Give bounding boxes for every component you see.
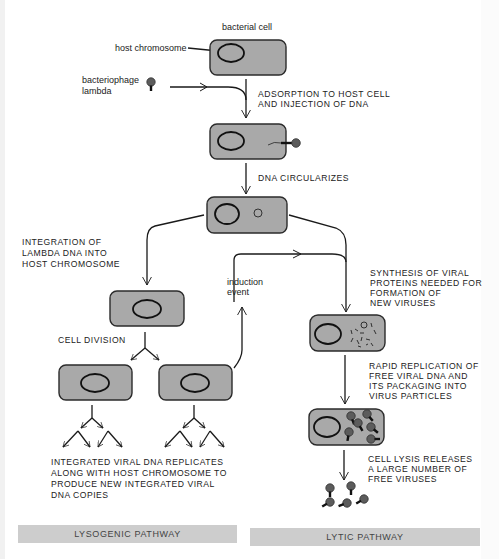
lysogen-cell xyxy=(110,291,184,326)
induction-from-daughter xyxy=(234,307,242,368)
bacterial-cell-circularized xyxy=(207,197,287,233)
step-lysis: CELL LYSIS RELEASES A LARGE NUMBER OF FR… xyxy=(368,454,475,484)
step-integrated-replicates: INTEGRATED VIRAL DNA REPLICATES ALONG WI… xyxy=(51,457,230,500)
free-virus-icons xyxy=(320,482,370,510)
bacterial-cell-label: bacterial cell xyxy=(222,22,272,32)
diagram-canvas: bacterial cell host chromosome bacteriop… xyxy=(0,0,499,559)
phage-adsorption-arrow xyxy=(170,87,246,100)
bacterial-cell-injected xyxy=(210,124,286,159)
replication-tree-right xyxy=(165,405,224,447)
lambda-lifecycle-diagram: bacterial cell host chromosome bacteriop… xyxy=(0,0,499,559)
step-cell-division: CELL DIVISION xyxy=(58,335,126,345)
bacteriophage-label-line2: lambda xyxy=(82,86,112,96)
division-arrow-right xyxy=(145,348,159,360)
replication-tree-left xyxy=(63,405,122,447)
daughter-cell-left xyxy=(59,365,132,400)
lytic-pathway-bar: LYTIC PATHWAY xyxy=(250,528,480,546)
arrow-to-synthesis xyxy=(289,215,346,312)
step-integration: INTEGRATION OF LAMBDA DNA INTO HOST CHRO… xyxy=(22,237,120,269)
induction-label-line2: event xyxy=(227,287,250,297)
attached-phage-icon xyxy=(292,139,301,148)
step-circularizes: DNA CIRCULARIZES xyxy=(258,173,349,183)
bacteriophage-icon xyxy=(147,78,155,91)
daughter-cell-right xyxy=(159,365,232,400)
step-rapid-replication: RAPID REPLICATION OF FREE VIRAL DNA AND … xyxy=(369,361,482,401)
lysogenic-pathway-bar: LYSOGENIC PATHWAY xyxy=(18,525,237,543)
induction-label-line1: induction xyxy=(227,277,263,287)
arrow-to-integration xyxy=(147,215,204,285)
division-arrow-left xyxy=(131,348,145,360)
bacteriophage-label-line1: bacteriophage xyxy=(82,75,139,85)
host-chromosome-label: host chromosome xyxy=(115,43,187,53)
bacterial-cell-initial xyxy=(210,40,286,75)
step-synthesis: SYNTHESIS OF VIRAL PROTEINS NEEDED FOR F… xyxy=(370,268,485,308)
step-adsorption: ADSORPTION TO HOST CELL AND INJECTION OF… xyxy=(258,89,393,109)
lytic-cell-synthesis xyxy=(310,315,385,351)
